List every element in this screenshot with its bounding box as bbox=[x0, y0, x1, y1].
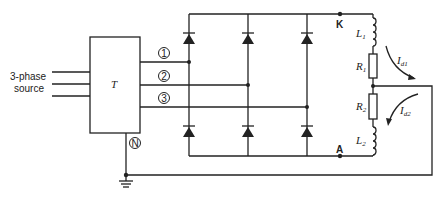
resistor-r1-icon bbox=[369, 54, 377, 78]
neutral-label: N bbox=[130, 138, 141, 149]
circuit-diagram: 3-phase source T 1 2 3 bbox=[0, 0, 444, 199]
diode-column-3 bbox=[301, 14, 313, 156]
diode-icon bbox=[242, 127, 254, 137]
source-label-1: 3-phase bbox=[10, 71, 47, 82]
label-l1: L1 bbox=[355, 27, 366, 41]
label-id1: Id1 bbox=[396, 54, 408, 68]
svg-text:N: N bbox=[131, 138, 138, 149]
source-label-2: source bbox=[14, 83, 44, 94]
transformer-label: T bbox=[111, 78, 118, 90]
resistor-r2-icon bbox=[369, 94, 377, 119]
svg-text:1: 1 bbox=[161, 48, 167, 59]
diode-icon bbox=[183, 34, 195, 44]
diode-icon bbox=[301, 127, 313, 137]
label-id2: Id2 bbox=[399, 104, 411, 118]
phase-label-1: 1 bbox=[159, 48, 170, 59]
phase-label-3: 3 bbox=[159, 93, 170, 104]
inductor-l1-icon bbox=[373, 18, 376, 46]
diode-icon bbox=[183, 127, 195, 137]
svg-text:3: 3 bbox=[161, 93, 167, 104]
phase-label-2: 2 bbox=[159, 71, 170, 82]
svg-text:2: 2 bbox=[161, 71, 167, 82]
node-a-label: A bbox=[336, 144, 343, 155]
source-input-lines bbox=[52, 72, 90, 96]
ground-icon bbox=[119, 181, 133, 187]
load-branch bbox=[369, 14, 377, 156]
diode-icon bbox=[301, 34, 313, 44]
ground-node-dot bbox=[124, 173, 128, 177]
inductor-l2-icon bbox=[373, 127, 376, 155]
label-l2: L2 bbox=[355, 134, 366, 148]
diode-icon bbox=[242, 34, 254, 44]
neutral-return-wire bbox=[126, 86, 432, 175]
node-k-dot bbox=[338, 12, 342, 16]
node-k-label: K bbox=[336, 19, 344, 30]
label-r1: R1 bbox=[355, 60, 366, 74]
label-r2: R2 bbox=[355, 100, 367, 114]
